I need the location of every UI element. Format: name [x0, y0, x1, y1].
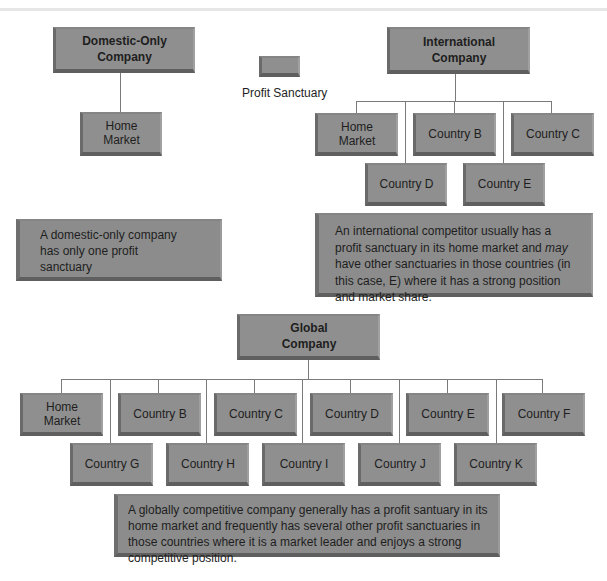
intl-connector-b [454, 101, 455, 113]
global-country-j-box: Country J [358, 443, 441, 486]
global-note: A globally competitive company generally… [114, 494, 500, 557]
top-divider [0, 8, 607, 11]
global-connector-i [302, 379, 303, 443]
intl-note-emphasis: may [545, 241, 568, 255]
global-country-g-box: Country G [70, 443, 153, 486]
global-country-d-box: Country D [310, 393, 393, 436]
global-connector-j [399, 379, 400, 443]
global-connector-k [496, 379, 497, 443]
intl-country-b-box: Country B [413, 113, 496, 156]
global-connector-trunk [308, 360, 309, 379]
intl-country-d-box: Country D [365, 163, 447, 206]
global-connector-c [254, 379, 255, 393]
global-country-i-box: Country I [262, 443, 345, 486]
global-country-f-box: Country F [502, 393, 585, 436]
international-note: An international competitor usually has … [315, 213, 593, 297]
global-country-b-box: Country B [118, 393, 201, 436]
global-connector-h [206, 379, 207, 443]
intl-home-market-box: Home Market [315, 113, 398, 156]
global-connector-b [158, 379, 159, 393]
global-company-box: Global Company [237, 314, 380, 360]
intl-note-text-2: have other sanctuaries in those countrie… [335, 257, 570, 304]
intl-connector-home [356, 101, 357, 113]
legend-profit-sanctuary-swatch [259, 56, 300, 77]
intl-connector-trunk [455, 74, 456, 101]
global-connector-g [110, 379, 111, 443]
domestic-company-box: Domestic-Only Company [53, 27, 195, 73]
domestic-note: A domestic-only company has only one pro… [16, 219, 222, 281]
domestic-home-market-box: Home Market [80, 112, 162, 156]
intl-country-c-box: Country C [511, 113, 594, 156]
global-country-h-box: Country H [166, 443, 249, 486]
global-home-market-box: Home Market [20, 393, 103, 436]
intl-note-text-1: An international competitor usually has … [335, 224, 551, 255]
global-country-k-box: Country K [454, 443, 537, 486]
global-country-e-box: Country E [406, 393, 489, 436]
intl-country-e-box: Country E [463, 163, 545, 206]
global-connector-f [542, 379, 543, 393]
global-connector-d [350, 379, 351, 393]
global-connector-home [61, 379, 62, 393]
intl-connector-d [405, 101, 406, 163]
domestic-connector [120, 73, 121, 112]
international-company-box: International Company [387, 27, 530, 74]
intl-connector-e [503, 101, 504, 163]
global-connector-e [447, 379, 448, 393]
legend-label: Profit Sanctuary [242, 86, 327, 100]
intl-connector-c [551, 101, 552, 113]
global-country-c-box: Country C [214, 393, 297, 436]
